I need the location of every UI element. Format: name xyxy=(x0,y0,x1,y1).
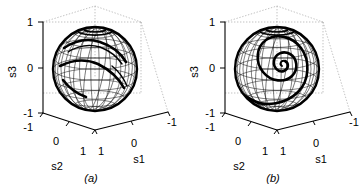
tick-s1-0: 0 xyxy=(131,137,137,149)
tick-s3-0: 0 xyxy=(209,62,215,74)
tick-s1-neg1: -1 xyxy=(349,116,359,128)
axis-ticks-s2-a xyxy=(40,113,95,134)
figure-container: 1 0 -1 -1 0 1 1 0 -1 s3 s2 s1 (a) xyxy=(0,0,364,195)
tick-s2-0: 0 xyxy=(53,135,59,147)
tick-s2-neg1: -1 xyxy=(205,121,215,133)
panel-b: 1 0 -1 -1 0 1 1 0 -1 s3 s2 s1 (b) xyxy=(182,0,364,195)
tick-s1-1: 1 xyxy=(98,145,104,157)
tick-s1-1: 1 xyxy=(280,145,286,157)
panel-a-plot: 1 0 -1 -1 0 1 1 0 -1 s3 s2 s1 xyxy=(0,0,182,195)
tick-s1-neg1: -1 xyxy=(167,116,177,128)
axis-title-s2: s2 xyxy=(233,160,245,172)
axis-title-s3: s3 xyxy=(188,66,200,78)
axis-ticks-s2-b xyxy=(222,113,277,134)
tick-s3-neg1: -1 xyxy=(23,107,33,119)
axis-ticks-s1-a xyxy=(95,112,170,134)
axis-ticks-s3-b xyxy=(220,22,225,113)
panel-a-caption: (a) xyxy=(0,172,182,184)
tick-s3-0: 0 xyxy=(27,62,33,74)
axis-ticks-s1-b xyxy=(277,112,352,134)
axis-title-s2: s2 xyxy=(51,160,63,172)
panel-b-caption: (b) xyxy=(182,172,364,184)
trajectory-b-focus xyxy=(281,61,285,66)
axis-title-s3: s3 xyxy=(6,66,18,78)
axis-title-s1: s1 xyxy=(315,153,327,165)
tick-s2-neg1: -1 xyxy=(23,121,33,133)
tick-s3-neg1: -1 xyxy=(205,107,215,119)
axis-ticks-s3-a xyxy=(38,22,43,113)
tick-s2-1: 1 xyxy=(80,145,86,157)
tick-s3-1: 1 xyxy=(27,16,33,28)
tick-s2-0: 0 xyxy=(235,135,241,147)
tick-s2-1: 1 xyxy=(262,145,268,157)
tick-s1-0: 0 xyxy=(313,137,319,149)
panel-a: 1 0 -1 -1 0 1 1 0 -1 s3 s2 s1 (a) xyxy=(0,0,182,195)
panel-b-plot: 1 0 -1 -1 0 1 1 0 -1 s3 s2 s1 xyxy=(182,0,364,195)
tick-s3-1: 1 xyxy=(209,16,215,28)
axis-title-s1: s1 xyxy=(133,153,145,165)
